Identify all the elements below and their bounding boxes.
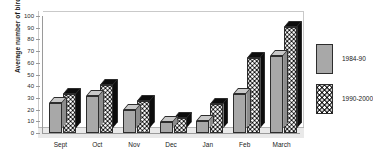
y-tick-mark — [36, 110, 40, 111]
y-tick-label: 70 — [27, 48, 34, 54]
y-tick-mark — [36, 86, 40, 87]
bar-side — [113, 80, 118, 128]
y-tick-label: 60 — [27, 60, 34, 66]
y-tick-mark — [36, 28, 40, 29]
y-tick-mark — [36, 133, 40, 134]
bar-feb-1 — [233, 94, 246, 133]
bar-face — [86, 96, 99, 133]
bar-group — [79, 0, 116, 161]
legend-swatch-1990-2000 — [316, 84, 333, 114]
x-tick-label: Jan — [189, 141, 226, 148]
y-tick-mark — [36, 75, 40, 76]
bar-group — [116, 0, 153, 161]
x-tick-label: Dec — [153, 141, 190, 148]
bar-group — [42, 0, 79, 161]
bar-chart: Average number of birds 1009080706050403… — [0, 0, 373, 161]
y-tick-label: 10 — [27, 118, 34, 124]
legend-label-1984-90: 1984-90 — [342, 55, 366, 62]
bar-sept-1 — [49, 103, 62, 133]
y-tick-mark — [36, 98, 40, 99]
bar-oct-1 — [86, 96, 99, 133]
y-tick-label: 50 — [27, 72, 34, 78]
y-axis-ticks: 1009080706050403020100 — [0, 0, 34, 161]
x-tick-label: Feb — [226, 141, 263, 148]
bar-jan-1 — [196, 121, 209, 133]
bar-dec-1 — [160, 122, 173, 133]
y-tick-mark — [36, 121, 40, 122]
bar-side — [246, 89, 251, 128]
x-tick-label: Oct — [79, 141, 116, 148]
bar-groups — [42, 0, 300, 161]
bar-face — [123, 110, 136, 133]
y-tick-label: 80 — [27, 36, 34, 42]
x-tick-label: Nov — [116, 141, 153, 148]
y-tick-label: 100 — [24, 13, 34, 19]
bar-face — [270, 56, 283, 133]
bar-face — [233, 94, 246, 133]
y-tick-mark — [36, 63, 40, 64]
bar-nov-1 — [123, 110, 136, 133]
y-tick-mark — [36, 39, 40, 40]
bar-side — [76, 89, 81, 128]
bar-group — [226, 0, 263, 161]
legend-swatch-1984-90 — [316, 44, 333, 74]
bar-group — [263, 0, 300, 161]
bar-side — [297, 22, 302, 128]
y-tick-mark — [36, 51, 40, 52]
legend-label-1990-2000: 1990-2000 — [342, 95, 373, 102]
y-tick-label: 90 — [27, 25, 34, 31]
x-tick-label: March — [263, 141, 300, 148]
bar-side — [260, 53, 265, 128]
y-tick-label: 30 — [27, 95, 34, 101]
bar-side — [283, 51, 288, 128]
bar-side — [99, 91, 104, 128]
y-tick-mark — [36, 16, 40, 17]
bar-march-1 — [270, 56, 283, 133]
bar-face — [160, 122, 173, 133]
y-tick-label: 20 — [27, 107, 34, 113]
bar-group — [153, 0, 190, 161]
y-tick-label: 0 — [31, 130, 34, 136]
y-tick-label: 40 — [27, 83, 34, 89]
bar-face — [196, 121, 209, 133]
bar-face — [49, 103, 62, 133]
bar-group — [189, 0, 226, 161]
x-tick-label: Sept — [42, 141, 79, 148]
